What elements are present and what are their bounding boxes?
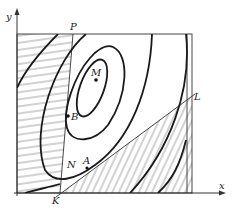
label-P: P [69, 21, 77, 32]
label-B: B [70, 111, 78, 122]
point-A [85, 166, 88, 169]
label-y: y [5, 11, 12, 22]
x-axis-arrow-icon [219, 191, 226, 196]
label-x: x [219, 180, 225, 191]
label-A: A [82, 155, 90, 166]
point-B [66, 114, 70, 118]
point-M [94, 78, 98, 82]
label-L: L [193, 91, 201, 102]
label-K: K [51, 195, 60, 206]
y-axis-arrow-icon [15, 8, 20, 15]
contour-2 [66, 46, 125, 139]
label-N: N [66, 159, 77, 170]
diagram-canvas: y x P M B A N K L [0, 0, 235, 212]
label-M: M [90, 67, 102, 78]
